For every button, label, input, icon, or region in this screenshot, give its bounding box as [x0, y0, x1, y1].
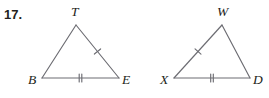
geometry-figure: 17. TBEWXD: [0, 0, 269, 98]
side-TB: [42, 25, 76, 78]
vertex-label-X: X: [159, 72, 169, 87]
vertex-label-E: E: [121, 72, 131, 87]
vertex-label-D: D: [252, 72, 263, 87]
vertex-label-W: W: [217, 4, 230, 19]
triangle-TBE: [42, 25, 119, 82]
triangle-WXD: [174, 25, 250, 82]
vertex-label-B: B: [28, 72, 36, 87]
side-WD: [222, 25, 250, 78]
triangles-canvas: TBEWXD: [0, 0, 269, 98]
side-TE-tick: [94, 49, 100, 54]
vertex-label-T: T: [71, 4, 80, 19]
side-TE-tick-marks: [94, 49, 100, 54]
